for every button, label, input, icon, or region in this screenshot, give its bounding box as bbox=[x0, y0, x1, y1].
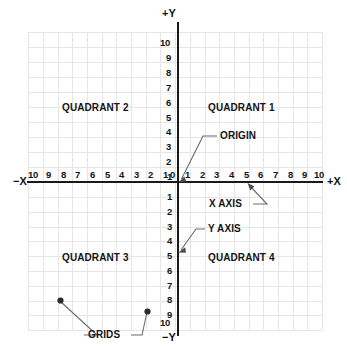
x-tick-neg-10: 10 bbox=[28, 170, 38, 180]
y-negative-axis-label: −Y bbox=[162, 332, 176, 343]
y-tick-neg-1: 1 bbox=[167, 192, 172, 202]
x-tick-neg-8: 8 bbox=[61, 170, 66, 180]
x-tick-neg-5: 5 bbox=[105, 170, 110, 180]
x-tick-neg-7: 7 bbox=[75, 170, 80, 180]
x-positive-axis-label: +X bbox=[327, 176, 341, 187]
x-tick-pos-10: 10 bbox=[314, 170, 324, 180]
y-tick-pos-7: 7 bbox=[166, 83, 171, 93]
x-tick-pos-1: 1 bbox=[185, 170, 190, 180]
y-tick-neg-7: 7 bbox=[167, 281, 172, 291]
quadrant-3-label: QUADRANT 3 bbox=[62, 253, 129, 263]
y-tick-pos-10: 10 bbox=[160, 38, 170, 48]
x-tick-neg-6: 6 bbox=[90, 170, 95, 180]
y-tick-neg-5: 5 bbox=[167, 251, 172, 261]
y-tick-pos-8: 8 bbox=[166, 68, 171, 78]
x-negative-axis-label: −X bbox=[13, 176, 27, 187]
x-tick-pos-4: 4 bbox=[229, 170, 234, 180]
y-tick-neg-10: 10 bbox=[160, 318, 170, 328]
x-tick-pos-8: 8 bbox=[288, 170, 293, 180]
y-tick-neg-8: 8 bbox=[167, 295, 172, 305]
x-tick-pos-2: 2 bbox=[200, 170, 205, 180]
x-tick-neg-2: 2 bbox=[148, 170, 153, 180]
y-tick-neg-2: 2 bbox=[167, 207, 172, 217]
x-tick-pos-6: 6 bbox=[258, 170, 263, 180]
coordinate-plane-diagram: +Y −Y +X −X 10 9 8 7 6 5 4 3 2 1 0 1 2 3… bbox=[0, 0, 347, 349]
quadrant-1-label: QUADRANT 1 bbox=[208, 103, 275, 113]
x-tick-pos-3: 3 bbox=[214, 170, 219, 180]
y-tick-neg-4: 4 bbox=[167, 236, 172, 246]
y-tick-pos-6: 6 bbox=[166, 98, 171, 108]
y-tick-pos-2: 2 bbox=[166, 157, 171, 167]
y-tick-pos-4: 4 bbox=[166, 127, 171, 137]
x-tick-pos-7: 7 bbox=[273, 170, 278, 180]
quadrant-4-label: QUADRANT 4 bbox=[208, 253, 275, 263]
y-tick-pos-5: 5 bbox=[166, 113, 171, 123]
x-tick-pos-5: 5 bbox=[244, 170, 249, 180]
y-tick-pos-9: 9 bbox=[166, 53, 171, 63]
grids-dot-left bbox=[57, 297, 63, 303]
grids-dot-right bbox=[144, 308, 150, 314]
y-tick-neg-6: 6 bbox=[167, 266, 172, 276]
y-tick-pos-3: 3 bbox=[166, 142, 171, 152]
y-axis-leader-line bbox=[181, 229, 205, 250]
quadrant-2-label: QUADRANT 2 bbox=[62, 103, 129, 113]
grids-callout-label: GRIDS bbox=[88, 330, 120, 340]
y-axis-callout-label: Y AXIS bbox=[208, 224, 241, 234]
x-tick-neg-3: 3 bbox=[134, 170, 139, 180]
y-tick-pos-1: 1 bbox=[167, 172, 172, 182]
x-axis-callout-label: X AXIS bbox=[209, 199, 242, 209]
leader-lines bbox=[61, 136, 267, 335]
y-positive-axis-label: +Y bbox=[162, 8, 176, 19]
y-tick-neg-3: 3 bbox=[167, 222, 172, 232]
x-tick-pos-9: 9 bbox=[302, 170, 307, 180]
x-axis-leader-line bbox=[250, 186, 267, 204]
x-tick-neg-4: 4 bbox=[119, 170, 124, 180]
origin-callout-label: ORIGIN bbox=[220, 131, 256, 141]
x-tick-neg-9: 9 bbox=[46, 170, 51, 180]
